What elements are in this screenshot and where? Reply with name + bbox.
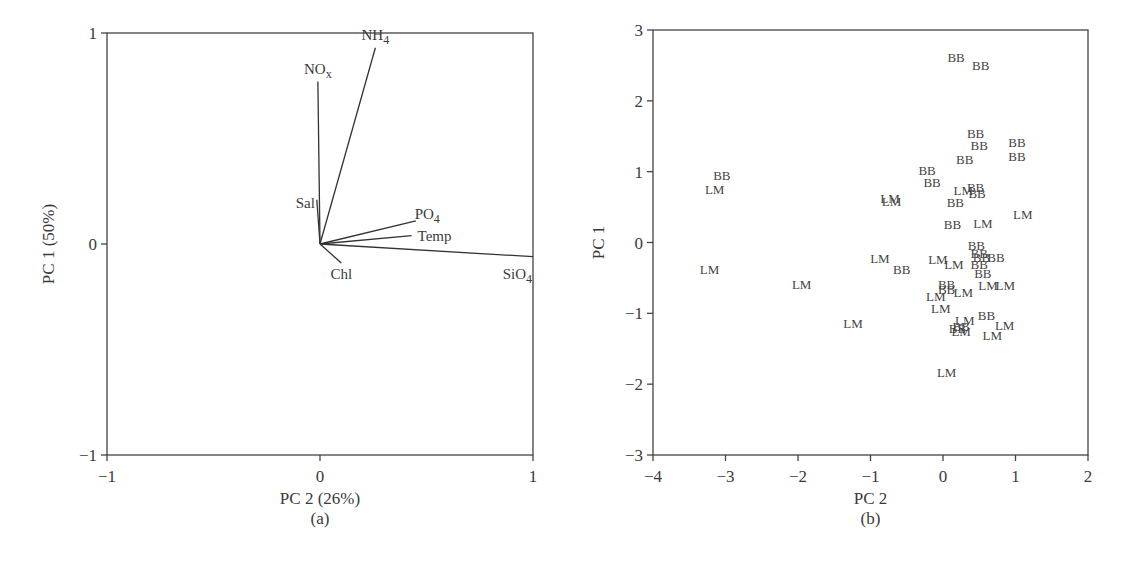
point-label-bb: BB (923, 175, 941, 190)
point-label-lm: LM (700, 262, 720, 277)
point-label-lm: LM (843, 316, 863, 331)
x-tick-label: −4 (644, 467, 663, 486)
panel-label: (b) (861, 509, 881, 528)
point-label-bb: BB (972, 58, 990, 73)
scatter-svg: 3210−1−2−3−4−3−2−1012PC 2(b)PC 1BBBBBBBB… (560, 0, 1135, 566)
point-label-bb: BB (893, 262, 911, 277)
vector-label-temp: Temp (418, 228, 452, 244)
point-label-bb: BB (987, 250, 1005, 265)
x-axis-title: PC 2 (854, 489, 888, 508)
loading-vector-po4 (320, 221, 416, 244)
x-tick-label: −1 (98, 467, 116, 486)
point-label-bb: BB (956, 152, 974, 167)
x-tick-label: 0 (939, 467, 948, 486)
point-label-lm: LM (973, 216, 993, 231)
y-tick-label: −3 (625, 446, 643, 465)
point-label-lm: LM (1013, 207, 1033, 222)
point-label-bb: BB (1008, 149, 1026, 164)
point-label-lm: LM (870, 251, 890, 266)
point-label-lm: LM (944, 257, 964, 272)
point-label-bb: BB (978, 308, 996, 323)
point-label-bb: BB (713, 168, 731, 183)
x-tick-label: −2 (789, 467, 807, 486)
point-label-lm: LM (954, 285, 974, 300)
x-axis-title: PC 2 (26%) (280, 489, 360, 508)
point-label-lm: LM (983, 328, 1003, 343)
y-tick-label: 0 (635, 234, 644, 253)
y-tick-label: −1 (79, 446, 97, 465)
loading-vector-chl (320, 244, 341, 263)
y-tick-label: −2 (625, 375, 643, 394)
x-tick-label: 2 (1084, 467, 1093, 486)
y-tick-label: 2 (635, 92, 644, 111)
point-label-lm: LM (996, 278, 1016, 293)
vector-label-po4: PO4 (415, 206, 440, 226)
y-axis-title: PC 1 (589, 226, 608, 260)
y-tick-label: 3 (635, 21, 644, 40)
vector-label-nox: NOx (304, 61, 332, 81)
point-label-lm: LM (792, 277, 812, 292)
x-tick-label: −1 (861, 467, 879, 486)
y-axis-title: PC 1 (50%) (39, 204, 58, 284)
vector-label-sio4: SiO4 (503, 266, 532, 286)
plot-frame (653, 30, 1088, 455)
point-label-lm: LM (951, 324, 971, 339)
panel-label: (a) (311, 509, 330, 528)
y-tick-label: 0 (89, 235, 98, 254)
point-label-bb: BB (944, 217, 962, 232)
point-label-bb: BB (1008, 135, 1026, 150)
loading-vector-temp (320, 236, 412, 244)
y-tick-label: 1 (89, 24, 98, 43)
biplot-panel-a: 10−1−101PC 2 (26%)(a)PC 1 (50%)NH4NOxSal… (0, 0, 560, 566)
point-label-bb: BB (947, 50, 965, 65)
point-label-lm: LM (705, 182, 725, 197)
x-tick-label: 1 (529, 467, 538, 486)
scatter-panel-b: 3210−1−2−3−4−3−2−1012PC 2(b)PC 1BBBBBBBB… (560, 0, 1135, 566)
x-tick-label: 1 (1011, 467, 1020, 486)
loading-vector-sio4 (320, 244, 533, 257)
point-label-bb: BB (971, 138, 989, 153)
point-label-lm: LM (954, 183, 974, 198)
y-tick-label: 1 (635, 163, 644, 182)
x-tick-label: −3 (716, 467, 734, 486)
point-label-lm: LM (931, 301, 951, 316)
y-tick-label: −1 (625, 304, 643, 323)
vector-label-chl: Chl (330, 266, 352, 282)
vector-label-nh4: NH4 (362, 27, 390, 47)
point-label-lm: LM (937, 365, 957, 380)
vector-label-sal: Sal (296, 195, 315, 211)
x-tick-label: 0 (316, 467, 325, 486)
biplot-svg: 10−1−101PC 2 (26%)(a)PC 1 (50%)NH4NOxSal… (0, 0, 560, 566)
point-label-lm: LM (882, 194, 902, 209)
